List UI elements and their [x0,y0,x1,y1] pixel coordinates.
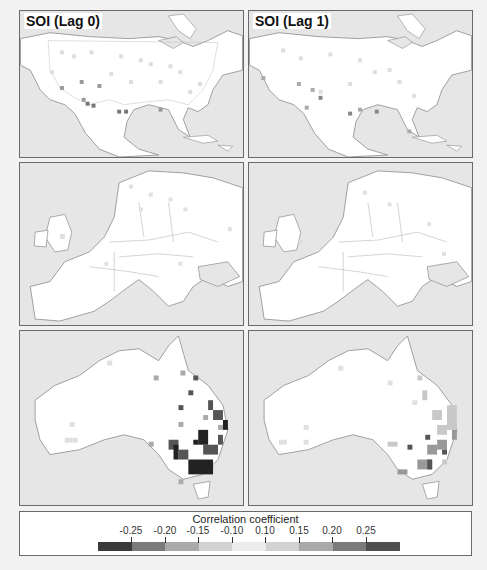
colorbar-segment [199,542,233,551]
tick-label: 0.25 [356,525,375,536]
map-panel-na-lag1: SOI (Lag 1) [248,10,473,158]
tick-label: 0.20 [322,525,341,536]
colorbar-segment [366,542,400,551]
tick-label: -0.15 [187,525,210,536]
colorbar-segment [98,542,132,551]
colorbar-segment [299,542,333,551]
tick-mark [332,537,333,543]
colorbar-legend: Correlation coefficient -0.25 -0.20 -0.1… [19,511,472,556]
north-america-map [249,11,472,157]
map-panel-eu-lag0 [19,162,244,326]
colorbar [98,542,400,551]
colorbar-segment [333,542,367,551]
tick-mark [198,537,199,543]
north-america-map [20,11,243,157]
tick-mark [299,537,300,543]
map-panel-eu-lag1 [248,162,473,326]
australia-map [20,331,243,505]
map-panel-au-lag1 [248,330,473,506]
tick-label: -0.25 [120,525,143,536]
tick-mark [265,537,266,543]
colorbar-segment [266,542,300,551]
tick-label: 0.10 [255,525,274,536]
panel-title: SOI (Lag 0) [24,13,102,29]
colorbar-segment [232,542,266,551]
map-panel-na-lag0: SOI (Lag 0) [19,10,244,158]
colorbar-segment [132,542,166,551]
tick-label: -0.20 [154,525,177,536]
map-panel-au-lag0 [19,330,244,506]
tick-mark [232,537,233,543]
legend-title: Correlation coefficient [20,513,471,525]
tick-mark [165,537,166,543]
tick-label: -0.10 [221,525,244,536]
tick-mark [131,537,132,543]
europe-map [249,163,472,325]
tick-label: 0.15 [289,525,308,536]
tick-mark [366,537,367,543]
colorbar-segment [165,542,199,551]
australia-map [249,331,472,505]
europe-map [20,163,243,325]
panel-title: SOI (Lag 1) [253,13,331,29]
